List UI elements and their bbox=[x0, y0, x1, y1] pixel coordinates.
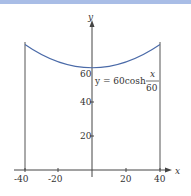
equation-lhs: y = 60cosh bbox=[94, 76, 146, 86]
catenary-diagram: y x -40 -20 20 40 20 40 60 y = 60cosh x … bbox=[0, 0, 191, 196]
x-axis-arrow-icon bbox=[165, 168, 172, 173]
x-axis-label: x bbox=[175, 166, 180, 176]
y-axis-label: y bbox=[87, 12, 94, 22]
x-tick-40: 40 bbox=[154, 174, 166, 184]
equation-numerator: x bbox=[150, 69, 155, 79]
y-tick-20: 20 bbox=[80, 131, 92, 141]
y-tick-60: 60 bbox=[80, 69, 92, 79]
equation-denominator: 60 bbox=[146, 83, 158, 93]
x-tick-20: 20 bbox=[120, 174, 132, 184]
x-tick-neg20: -20 bbox=[48, 174, 63, 184]
y-tick-40: 40 bbox=[80, 97, 92, 107]
x-tick-neg40: -40 bbox=[14, 174, 29, 184]
